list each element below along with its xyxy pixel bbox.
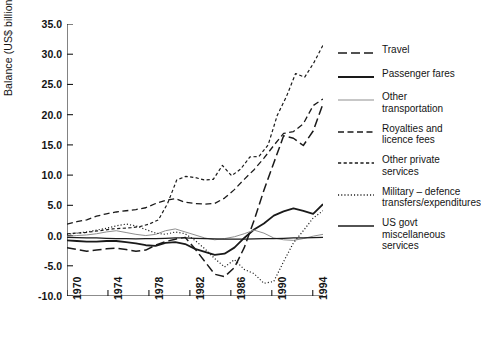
legend-line-swatch [338,126,374,138]
legend-line-swatch [338,189,374,201]
x-tick-label: 1982 [194,277,206,300]
legend-label: Other transportation [382,91,470,114]
legend-label: Travel [382,44,409,56]
legend-item[interactable]: Other transportation [338,91,470,114]
chart-legend: TravelPassenger faresOther transportatio… [338,44,470,260]
legend-item[interactable]: Travel [338,44,470,59]
x-tick-label: 1994 [317,277,329,300]
x-tick-label: 1986 [235,277,247,300]
legend-label: Military – defence transfers/expenditure… [382,186,481,209]
x-tick-label: 1974 [112,277,124,300]
legend-line-swatch [338,47,374,59]
legend-line-swatch [338,220,374,232]
x-tick-label: 1970 [71,277,83,300]
x-tick-label: 1990 [276,277,288,300]
legend-label: Royalties and licence fees [382,123,443,146]
legend-item[interactable]: Passenger fares [338,68,470,83]
legend-item[interactable]: Other private services [338,154,470,177]
legend-line-swatch [338,71,374,83]
legend-label: Other private services [382,154,440,177]
legend-item[interactable]: US govt miscellaneous services [338,217,470,252]
legend-line-swatch [338,94,374,106]
legend-item[interactable]: Royalties and licence fees [338,123,470,146]
x-tick-label: 1978 [153,277,165,300]
legend-label: Passenger fares [382,68,455,80]
legend-line-swatch [338,157,374,169]
legend-item[interactable]: Military – defence transfers/expenditure… [338,186,470,209]
legend-label: US govt miscellaneous services [382,217,445,252]
